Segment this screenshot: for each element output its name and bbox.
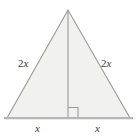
- label-left-side: 2x: [18, 58, 28, 69]
- label-right-side: 2x: [101, 58, 111, 69]
- triangle-diagram: [0, 0, 139, 139]
- label-left-side-variable: x: [24, 57, 29, 69]
- label-base-left-variable: x: [35, 122, 40, 134]
- label-right-side-variable: x: [107, 57, 112, 69]
- geometry-figure: 2x 2x x x: [0, 0, 139, 139]
- label-base-left: x: [35, 123, 40, 134]
- label-base-right-variable: x: [95, 122, 100, 134]
- label-base-right: x: [95, 123, 100, 134]
